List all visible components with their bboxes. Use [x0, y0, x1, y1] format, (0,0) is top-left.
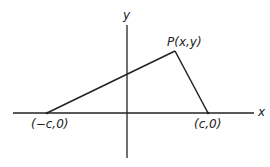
point-left-focus	[46, 112, 49, 115]
right-focus-label: (c,0)	[194, 118, 221, 130]
diagram-svg	[0, 0, 270, 167]
segment-p-to-right-focus	[175, 51, 208, 113]
left-focus-label: (−c,0)	[31, 118, 68, 130]
segment-left-focus-to-p	[47, 51, 175, 113]
diagram-canvas: y x P(x,y) (−c,0) (c,0)	[0, 0, 270, 167]
point-right-focus	[207, 112, 210, 115]
y-axis-label: y	[123, 9, 130, 21]
point-p-label: P(x,y)	[167, 36, 202, 48]
x-axis-label: x	[258, 106, 265, 118]
